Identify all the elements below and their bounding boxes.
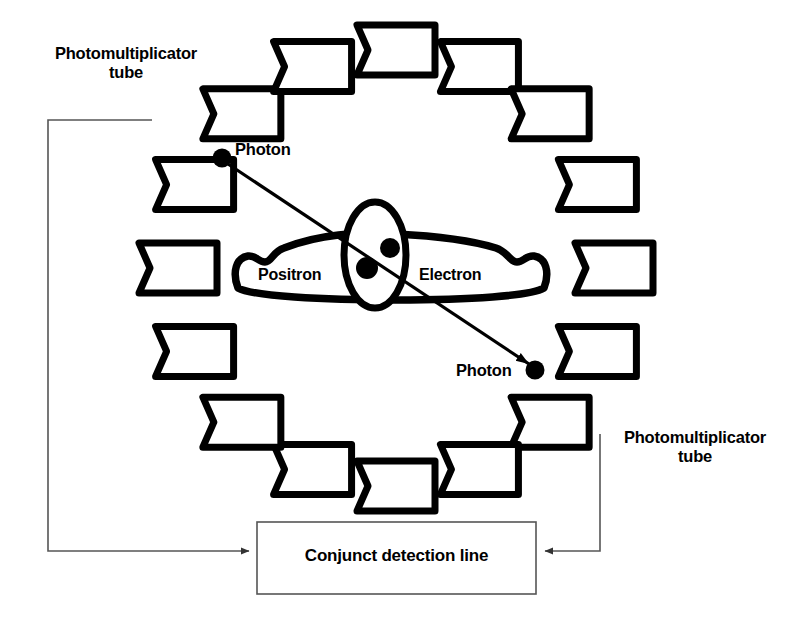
detector-block[interactable] xyxy=(440,42,518,92)
detector-block[interactable] xyxy=(357,461,435,511)
electron-label: Electron xyxy=(419,266,481,284)
positron-dot xyxy=(356,257,378,279)
detector-block[interactable] xyxy=(511,89,589,139)
annihilation-region xyxy=(228,164,547,364)
photon-label-lower: Photon xyxy=(456,361,512,380)
detector-block[interactable] xyxy=(575,243,653,293)
detector-block[interactable] xyxy=(139,243,217,293)
right-connector xyxy=(545,434,600,551)
pmt-label-bottom-right: Photomultiplicator tube xyxy=(597,428,793,466)
positron-label: Positron xyxy=(258,266,321,284)
pmt-label-top-left: Photomultiplicator tube xyxy=(26,44,226,82)
diagram-canvas: Photomultiplicator tube Photomultiplicat… xyxy=(0,0,798,626)
detector-block[interactable] xyxy=(274,444,352,494)
conjunct-detection-line-label: Conjunct detection line xyxy=(257,546,536,566)
pet-scanner-diagram xyxy=(0,0,798,626)
detector-block[interactable] xyxy=(511,397,589,447)
photon-label-upper: Photon xyxy=(235,140,291,159)
detector-block[interactable] xyxy=(274,42,352,92)
electron-dot xyxy=(380,238,400,258)
photon-upper-dot xyxy=(213,149,232,168)
detector-block[interactable] xyxy=(357,25,435,75)
detector-block[interactable] xyxy=(558,326,636,376)
detector-block[interactable] xyxy=(440,444,518,494)
detector-block[interactable] xyxy=(203,397,281,447)
photon-lower-dot xyxy=(526,361,545,380)
detector-block[interactable] xyxy=(203,89,281,139)
detector-block[interactable] xyxy=(558,160,636,210)
detector-block[interactable] xyxy=(156,326,234,376)
